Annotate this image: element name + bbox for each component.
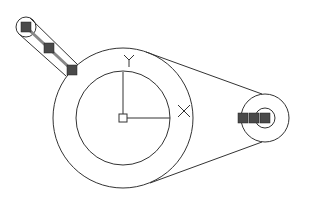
belt-lower-line[interactable]: [150, 142, 262, 183]
small-pulley-grips[interactable]: [238, 113, 270, 123]
handle-edge-upper[interactable]: [30, 18, 78, 65]
grip-square-icon[interactable]: [21, 22, 31, 32]
handle-edge-lower[interactable]: [19, 34, 66, 76]
grip-square-icon[interactable]: [238, 113, 248, 123]
grip-square-icon[interactable]: [67, 65, 77, 75]
cad-drawing-canvas[interactable]: [0, 0, 314, 198]
belt-upper-line[interactable]: [146, 52, 262, 94]
grip-square-icon[interactable]: [260, 113, 270, 123]
handle-grips[interactable]: [21, 22, 77, 75]
grip-square-icon[interactable]: [249, 113, 259, 123]
ucs-y-label-icon: [124, 55, 134, 67]
ucs-origin-square: [119, 114, 127, 122]
ucs-icon: [119, 55, 190, 122]
ucs-x-label-icon: [178, 105, 190, 117]
grip-square-icon[interactable]: [44, 43, 54, 53]
